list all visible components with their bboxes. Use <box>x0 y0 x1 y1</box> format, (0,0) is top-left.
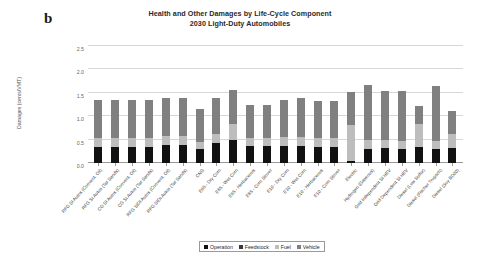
legend-swatch-vehicle <box>297 245 301 249</box>
legend-item-vehicle[interactable]: Vehicle <box>297 244 320 250</box>
bar-segment-fuel <box>330 138 338 147</box>
bar-segment-vehicle <box>415 106 423 124</box>
bar-segment-vehicle <box>398 91 406 140</box>
legend-swatch-operation <box>204 245 208 249</box>
bar-segment-vehicle <box>280 100 288 137</box>
panel-letter: b <box>44 10 52 27</box>
bar-segment-vehicle <box>347 92 355 125</box>
bar-segment-operation <box>212 143 220 163</box>
legend-item-fuel[interactable]: Fuel <box>275 244 291 250</box>
chart-title-line-1: Health and Other Damages by Life-Cycle C… <box>100 9 380 19</box>
bar-segment-operation <box>94 147 102 163</box>
bar-segment-vehicle <box>111 100 119 138</box>
bar-segment-vehicle <box>314 101 322 138</box>
bar-segment-vehicle <box>297 98 305 136</box>
chart-title: Health and Other Damages by Life-Cycle C… <box>100 9 380 28</box>
bar-segment-vehicle <box>364 85 372 140</box>
chart-title-line-2: 2030 Light-Duty Automobiles <box>100 19 380 29</box>
bar-segment-vehicle <box>94 100 102 138</box>
bar-segment-fuel <box>314 138 322 147</box>
bar-segment-vehicle <box>229 90 237 123</box>
legend-swatch-feedstock <box>239 245 243 249</box>
stacked-bar[interactable] <box>94 100 102 163</box>
bar-segment-fuel <box>94 138 102 147</box>
bar-segment-vehicle <box>448 111 456 133</box>
x-axis-labels: RFG SI Autos (Convent. Oil)RFG SI Autos … <box>88 167 463 237</box>
chart-legend: OperationFeedstockFuelVehicle <box>199 241 325 252</box>
legend-label-operation: Operation <box>210 244 233 250</box>
bar-column[interactable] <box>90 46 107 163</box>
bar-segment-vehicle <box>263 105 271 138</box>
bar-segment-fuel <box>263 138 271 146</box>
legend-label-vehicle: Vehicle <box>303 244 320 250</box>
bar-segment-fuel <box>246 138 254 146</box>
legend-label-fuel: Fuel <box>281 244 291 250</box>
bar-segment-fuel <box>381 140 389 148</box>
legend-swatch-fuel <box>275 245 279 249</box>
y-axis-label: Damages (cents/VMT) <box>16 63 22 143</box>
bar-segment-vehicle <box>381 91 389 139</box>
bar-segment-vehicle <box>246 105 254 139</box>
legend-label-feedstock: Feedstock <box>245 244 269 250</box>
legend-item-operation[interactable]: Operation <box>204 244 233 250</box>
bar-segment-vehicle <box>330 101 338 138</box>
bar-segment-fuel <box>229 124 237 140</box>
stacked-bar[interactable] <box>364 85 372 163</box>
legend-item-feedstock[interactable]: Feedstock <box>239 244 269 250</box>
